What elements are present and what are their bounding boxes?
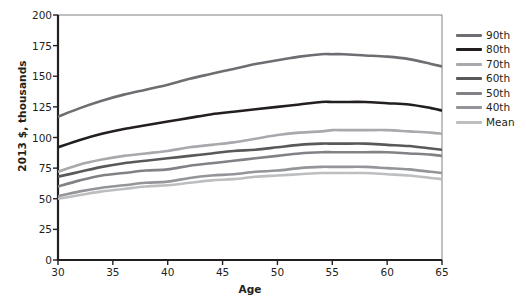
legend-label: 40th <box>486 102 510 113</box>
x-axis-tick-label: 40 <box>148 266 188 278</box>
x-axis-tick-label: 60 <box>367 266 407 278</box>
x-axis-tick-label: 55 <box>312 266 352 278</box>
legend-label: 60th <box>486 73 510 84</box>
legend-swatch-icon <box>456 77 482 80</box>
legend-swatch-icon <box>456 48 482 51</box>
series-line-40th <box>58 167 442 196</box>
legend-label: 80th <box>486 44 510 55</box>
legend-item-90th[interactable]: 90th <box>456 28 526 43</box>
legend-item-70th[interactable]: 70th <box>456 57 526 72</box>
x-axis-title: Age <box>58 283 442 295</box>
legend-swatch-icon <box>456 34 482 37</box>
x-axis-tick-label: 35 <box>93 266 133 278</box>
legend-item-60th[interactable]: 60th <box>456 72 526 87</box>
legend-item-40th[interactable]: 40th <box>456 101 526 116</box>
series-line-90th <box>58 54 442 117</box>
legend-swatch-icon <box>456 106 482 109</box>
x-axis-tick-label: 45 <box>203 266 243 278</box>
legend: 90th80th70th60th50th40thMean <box>456 28 526 130</box>
legend-label: 50th <box>486 88 510 99</box>
legend-label: 90th <box>486 30 510 41</box>
legend-item-80th[interactable]: 80th <box>456 43 526 58</box>
x-axis-tick-label: 65 <box>422 266 462 278</box>
legend-item-50th[interactable]: 50th <box>456 86 526 101</box>
chart-figure: 2013 $, thousands 0255075100125150175200… <box>0 0 526 301</box>
legend-label: Mean <box>486 117 515 128</box>
x-axis-tick-label: 30 <box>38 266 78 278</box>
legend-swatch-icon <box>456 121 482 124</box>
legend-swatch-icon <box>456 63 482 66</box>
plot-area <box>0 0 526 301</box>
x-axis-tick-label: 50 <box>257 266 297 278</box>
legend-swatch-icon <box>456 92 482 95</box>
legend-item-mean[interactable]: Mean <box>456 115 526 130</box>
legend-label: 70th <box>486 59 510 70</box>
